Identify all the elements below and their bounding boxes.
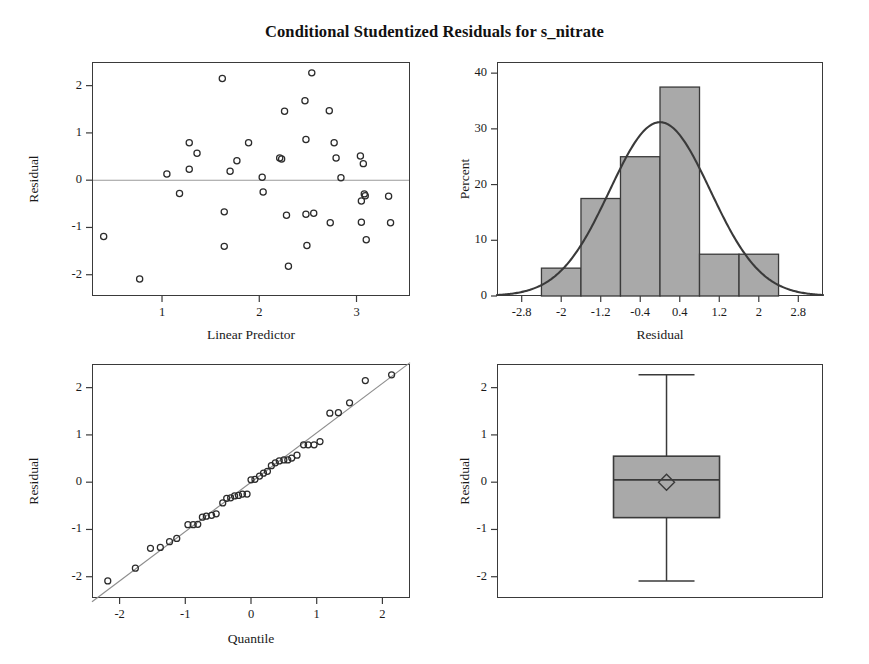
page-title: Conditional Studentized Residuals for s_… <box>0 22 869 42</box>
panel-residual-histogram: 010203040-2.8-2-1.2-0.40.41.222.8Residua… <box>435 48 869 348</box>
qq-xtick-2: 2 <box>352 607 412 622</box>
qq-ytick--2: -2 <box>0 569 82 584</box>
qq-xtick-1: 1 <box>287 607 347 622</box>
scatter-xtick-2: 2 <box>229 305 289 320</box>
scatter-plot-canvas <box>0 48 434 348</box>
scatter-ytick-2: 2 <box>0 78 82 93</box>
hist-ytick-40: 40 <box>435 65 487 80</box>
scatter-xaxis-label: Linear Predictor <box>151 327 351 343</box>
histogram-canvas <box>435 48 869 348</box>
panel-residual-vs-linear-predictor: 210-1-2123Linear PredictorResidual <box>0 48 434 348</box>
hist-xtick-7: 2.8 <box>768 305 828 320</box>
scatter-xtick-1: 1 <box>132 305 192 320</box>
qq-xaxis-label: Quantile <box>151 631 351 647</box>
hist-yaxis-label: Percent <box>457 99 473 259</box>
qq-xtick--2: -2 <box>90 607 150 622</box>
qq-ytick-2: 2 <box>0 380 82 395</box>
qq-xtick--1: -1 <box>155 607 215 622</box>
scatter-yaxis-label: Residual <box>26 99 42 259</box>
scatter-xtick-3: 3 <box>327 305 387 320</box>
box-yaxis-label: Residual <box>457 401 473 561</box>
qq-xtick-0: 0 <box>221 607 281 622</box>
box-ytick-2: 2 <box>435 380 487 395</box>
hist-xaxis-label: Residual <box>560 327 760 343</box>
box-ytick--2: -2 <box>435 569 487 584</box>
scatter-ytick--2: -2 <box>0 267 82 282</box>
qq-yaxis-label: Residual <box>26 401 42 561</box>
panel-residual-qq-plot: 210-1-2-2-1012QuantileResidual <box>0 348 434 664</box>
panel-residual-box-plot: 210-1-2Residual <box>435 348 869 664</box>
hist-ytick-0: 0 <box>435 288 487 303</box>
boxplot-canvas <box>435 348 869 664</box>
